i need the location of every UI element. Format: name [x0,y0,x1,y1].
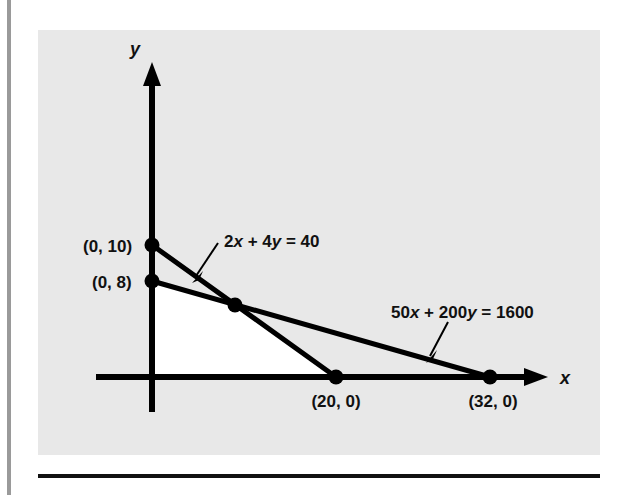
y-axis-label: y [129,39,141,59]
x-axis-arrowhead [524,368,548,386]
label-point-20-0: (20, 0) [311,392,360,411]
leader-line-2x-4y-40 [196,243,218,276]
label-point-0-8: (0, 8) [92,273,132,292]
point-32-0-dot [483,370,498,385]
leader-line-50x-200y-1600 [430,322,448,356]
linear-programming-graph: y x (0, 10) (0, 8) (20, 0) (32, 0) 2x + … [0,0,627,495]
point-20-0-dot [329,370,344,385]
point-0-10-dot [145,238,160,253]
label-point-0-10: (0, 10) [83,237,132,256]
label-point-32-0: (32, 0) [468,392,517,411]
point-intersection-dot [228,298,243,313]
figure-page: y x (0, 10) (0, 8) (20, 0) (32, 0) 2x + … [0,0,627,495]
y-axis-arrowhead [143,62,161,86]
figure-bottom-rule [38,474,600,478]
label-equation-50x-200y-1600: 50x + 200y = 1600 [391,303,534,322]
label-equation-2x-4y-40: 2x + 4y = 40 [224,232,320,251]
x-axis-label: x [559,368,571,388]
point-0-8-dot [145,274,160,289]
feasible-region-shading [152,281,336,377]
